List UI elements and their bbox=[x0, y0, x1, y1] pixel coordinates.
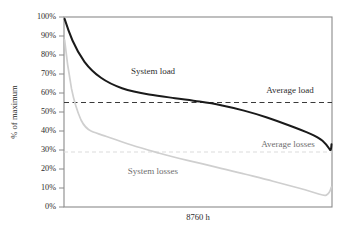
y-tick-label-50: 50% bbox=[41, 107, 56, 116]
y-tick-label-100: 100% bbox=[37, 12, 56, 21]
plot-area-border bbox=[64, 17, 332, 207]
y-axis-ticks bbox=[59, 17, 64, 207]
chart-figure: 100% 90% 80% 70% 60% 50% 40% 30% 20% 10%… bbox=[0, 0, 347, 231]
average-load-annotation: Average load bbox=[266, 85, 314, 95]
y-axis-tick-labels: 100% 90% 80% 70% 60% 50% 40% 30% 20% 10%… bbox=[37, 12, 56, 211]
system-load-annotation: System load bbox=[131, 66, 176, 76]
y-tick-label-90: 90% bbox=[41, 31, 56, 40]
y-tick-label-70: 70% bbox=[41, 69, 56, 78]
x-axis-label: 8760 h bbox=[186, 212, 210, 222]
y-axis-title: % of maximum bbox=[9, 85, 19, 139]
y-tick-label-80: 80% bbox=[41, 50, 56, 59]
y-tick-label-40: 40% bbox=[41, 126, 56, 135]
y-tick-label-20: 20% bbox=[41, 164, 56, 173]
y-tick-label-60: 60% bbox=[41, 88, 56, 97]
y-tick-label-0: 0% bbox=[45, 202, 56, 211]
system-losses-annotation: System losses bbox=[128, 166, 179, 176]
plot-frame bbox=[64, 17, 332, 207]
y-tick-label-30: 30% bbox=[41, 145, 56, 154]
y-tick-label-10: 10% bbox=[41, 183, 56, 192]
average-losses-annotation: Average losses bbox=[261, 139, 315, 149]
load-duration-curve-chart: 100% 90% 80% 70% 60% 50% 40% 30% 20% 10%… bbox=[0, 0, 347, 231]
